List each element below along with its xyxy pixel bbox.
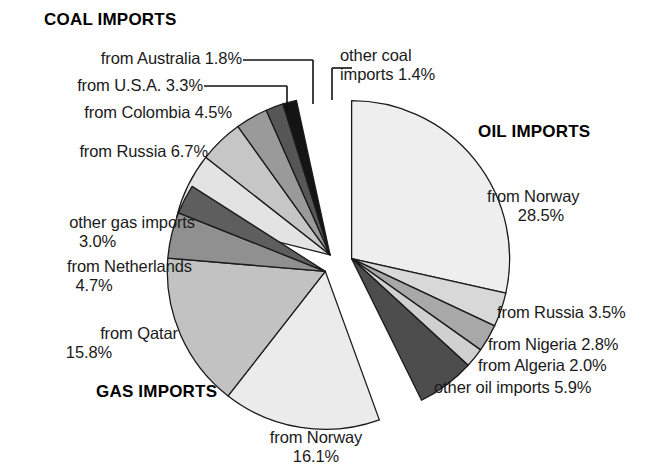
- label-coal-other-line2: imports 1.4%: [340, 65, 435, 84]
- label-gas-netherlands-line1: from Netherlands: [0, 257, 192, 276]
- label-gas-other-line2: 3.0%: [0, 232, 195, 251]
- label-coal-australia: from Australia 1.8%: [0, 49, 242, 68]
- label-gas-qatar-line2: 15.8%: [0, 343, 178, 362]
- label-oil-algeria: from Algeria 2.0%: [478, 356, 607, 375]
- label-gas-netherlands-line2: 4.7%: [0, 276, 188, 295]
- label-oil-russia: from Russia 3.5%: [497, 303, 626, 322]
- label-coal-russia: from Russia 6.7%: [0, 142, 208, 161]
- section-header-gas: GAS IMPORTS: [96, 382, 217, 402]
- label-oil-other: other oil imports 5.9%: [434, 378, 591, 397]
- label-coal-colombia: from Colombia 4.5%: [0, 103, 232, 122]
- chart-canvas: COAL IMPORTS OIL IMPORTS GAS IMPORTS fro…: [0, 0, 658, 469]
- label-coal-usa: from U.S.A. 3.3%: [0, 76, 203, 95]
- label-gas-other-line1: other gas imports: [0, 213, 195, 232]
- label-oil-norway-line1: from Norway: [487, 187, 579, 206]
- label-gas-norway-line2: 16.1%: [236, 447, 396, 466]
- label-oil-norway-line2: 28.5%: [487, 206, 595, 225]
- section-header-oil: OIL IMPORTS: [478, 122, 590, 142]
- label-gas-qatar-line1: from Qatar: [0, 324, 178, 343]
- label-coal-other-line1: other coal: [340, 46, 411, 65]
- section-header-coal: COAL IMPORTS: [44, 10, 176, 30]
- label-oil-nigeria: from Nigeria 2.8%: [488, 335, 618, 354]
- label-gas-norway-line1: from Norway: [236, 428, 396, 447]
